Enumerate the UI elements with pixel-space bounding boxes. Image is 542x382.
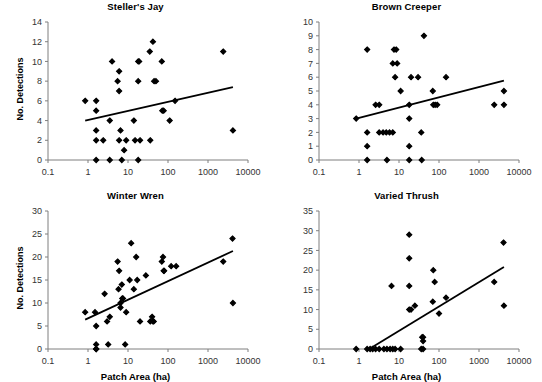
x-tick-label: 0.1 [42, 167, 55, 177]
data-point [419, 157, 424, 162]
x-tick-label: 0.1 [313, 167, 326, 177]
data-point [384, 157, 389, 162]
x-tick-label: 1000 [469, 167, 489, 177]
data-point [150, 39, 155, 44]
panel-varied-thrush: Varied Thrush 051015202530350.1110100100… [271, 189, 542, 378]
x-tick-label: 10 [123, 356, 133, 366]
plot-area-brown-creeper: 0123456789100.1110100100010000 [271, 0, 542, 189]
data-point [432, 279, 437, 284]
data-point [94, 128, 99, 133]
data-point [174, 264, 179, 269]
y-tick-label: 0 [308, 344, 313, 354]
data-point [501, 303, 506, 308]
data-point [407, 256, 412, 261]
data-point [127, 277, 132, 282]
x-tick-label: 10 [123, 167, 133, 177]
data-point [230, 300, 235, 305]
x-tick-label: 1 [356, 167, 361, 177]
data-point [136, 157, 141, 162]
y-tick-label: 9 [308, 31, 313, 41]
data-point [398, 88, 403, 93]
data-point [421, 33, 426, 38]
y-axis-title: No. Detections [15, 47, 25, 131]
y-tick-label: 14 [32, 17, 42, 27]
y-tick-label: 20 [303, 265, 313, 275]
data-point [365, 144, 370, 149]
data-point [230, 236, 235, 241]
plot-area-varied-thrush: 051015202530350.1110100100010000 [271, 189, 542, 378]
data-point [117, 88, 122, 93]
data-point [492, 102, 497, 107]
data-point [430, 299, 435, 304]
data-point [492, 279, 497, 284]
data-point [159, 59, 164, 64]
data-point [159, 259, 164, 264]
data-point [107, 118, 112, 123]
data-point [115, 79, 120, 84]
x-tick-label: 10000 [235, 356, 260, 366]
panel-winter-wren: Winter Wren 0510152025300.11101001000100… [0, 189, 271, 378]
data-point [109, 59, 114, 64]
data-point [118, 128, 123, 133]
data-point [83, 310, 88, 315]
data-point [117, 69, 122, 74]
y-tick-label: 0 [37, 344, 42, 354]
data-point [147, 49, 152, 54]
data-point [430, 88, 435, 93]
data-point [377, 102, 382, 107]
data-point [94, 98, 99, 103]
regression-line [369, 267, 504, 349]
data-point [101, 138, 106, 143]
y-tick-label: 6 [37, 96, 42, 106]
data-point [131, 287, 136, 292]
y-tick-label: 6 [308, 72, 313, 82]
x-tick-label: 1000 [198, 167, 218, 177]
data-point [94, 346, 99, 351]
data-point [221, 49, 226, 54]
data-point [129, 241, 134, 246]
data-points [354, 33, 507, 162]
y-tick-label: 10 [303, 17, 313, 27]
data-point [116, 287, 121, 292]
x-tick-label: 1 [85, 167, 90, 177]
y-tick-label: 35 [303, 206, 313, 216]
data-point [501, 88, 506, 93]
y-tick-label: 30 [32, 206, 42, 216]
x-tick-label: 100 [431, 167, 446, 177]
data-point [143, 273, 148, 278]
data-point [119, 157, 124, 162]
data-point [419, 130, 424, 135]
data-point [94, 323, 99, 328]
data-point [221, 259, 226, 264]
x-tick-label: 1000 [469, 356, 489, 366]
data-point [412, 303, 417, 308]
x-tick-label: 10 [394, 167, 404, 177]
data-point [131, 118, 136, 123]
data-point [354, 346, 359, 351]
y-tick-label: 5 [308, 86, 313, 96]
x-tick-label: 10000 [506, 167, 531, 177]
data-point [501, 102, 506, 107]
data-point [117, 268, 122, 273]
data-point [393, 75, 398, 80]
data-point [137, 138, 142, 143]
data-point [94, 157, 99, 162]
y-tick-label: 1 [308, 141, 313, 151]
data-point [136, 79, 141, 84]
panel-stellers-jay: Steller's Jay 024681012140.1110100100010… [0, 0, 271, 189]
data-point [94, 108, 99, 113]
data-point [94, 138, 99, 143]
data-point [117, 138, 122, 143]
data-points [83, 236, 236, 352]
x-tick-label: 10000 [235, 167, 260, 177]
y-tick-label: 30 [303, 226, 313, 236]
y-tick-label: 5 [308, 324, 313, 334]
data-point [407, 144, 412, 149]
data-point [230, 128, 235, 133]
plot-area-winter-wren: 0510152025300.1110100100010000 [0, 189, 271, 378]
x-tick-label: 100 [160, 356, 175, 366]
y-tick-label: 8 [37, 76, 42, 86]
data-point [124, 138, 129, 143]
y-tick-label: 4 [308, 100, 313, 110]
